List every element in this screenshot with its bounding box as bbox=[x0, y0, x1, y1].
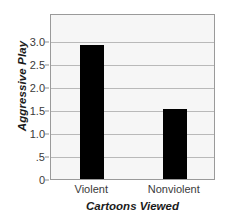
y-tick-mark bbox=[45, 110, 49, 111]
y-tick-mark bbox=[45, 41, 49, 42]
y-tick-mark bbox=[45, 156, 49, 157]
gridline bbox=[51, 65, 214, 66]
y-tick-label: 3.0 bbox=[1, 36, 45, 48]
gridline bbox=[51, 157, 214, 158]
y-tick-mark bbox=[45, 180, 49, 181]
plot-area bbox=[50, 14, 215, 180]
y-tick-label: 2.0 bbox=[1, 82, 45, 94]
x-tick-label: Nonviolent bbox=[148, 183, 200, 195]
gridline bbox=[51, 134, 214, 135]
x-tick-label: Violent bbox=[75, 183, 108, 195]
bar-nonviolent bbox=[163, 109, 187, 179]
y-tick-label: .5 bbox=[1, 151, 45, 163]
x-axis-tick-labels: ViolentNonviolent bbox=[50, 183, 215, 201]
y-tick-mark bbox=[45, 133, 49, 134]
gridline bbox=[51, 42, 214, 43]
bar-chart-figure: Aggressive Play 0.51.01.52.02.53.0 Viole… bbox=[0, 0, 244, 223]
gridline bbox=[51, 88, 214, 89]
bar-violent bbox=[80, 45, 104, 179]
y-tick-mark bbox=[45, 87, 49, 88]
gridline bbox=[51, 111, 214, 112]
y-tick-mark bbox=[45, 64, 49, 65]
y-tick-label: 1.0 bbox=[1, 128, 45, 140]
x-axis-title: Cartoons Viewed bbox=[50, 200, 215, 212]
y-tick-label: 0 bbox=[1, 174, 45, 186]
y-tick-label: 1.5 bbox=[1, 105, 45, 117]
y-axis-tick-labels: 0.51.01.52.02.53.0 bbox=[0, 0, 48, 223]
y-tick-label: 2.5 bbox=[1, 59, 45, 71]
